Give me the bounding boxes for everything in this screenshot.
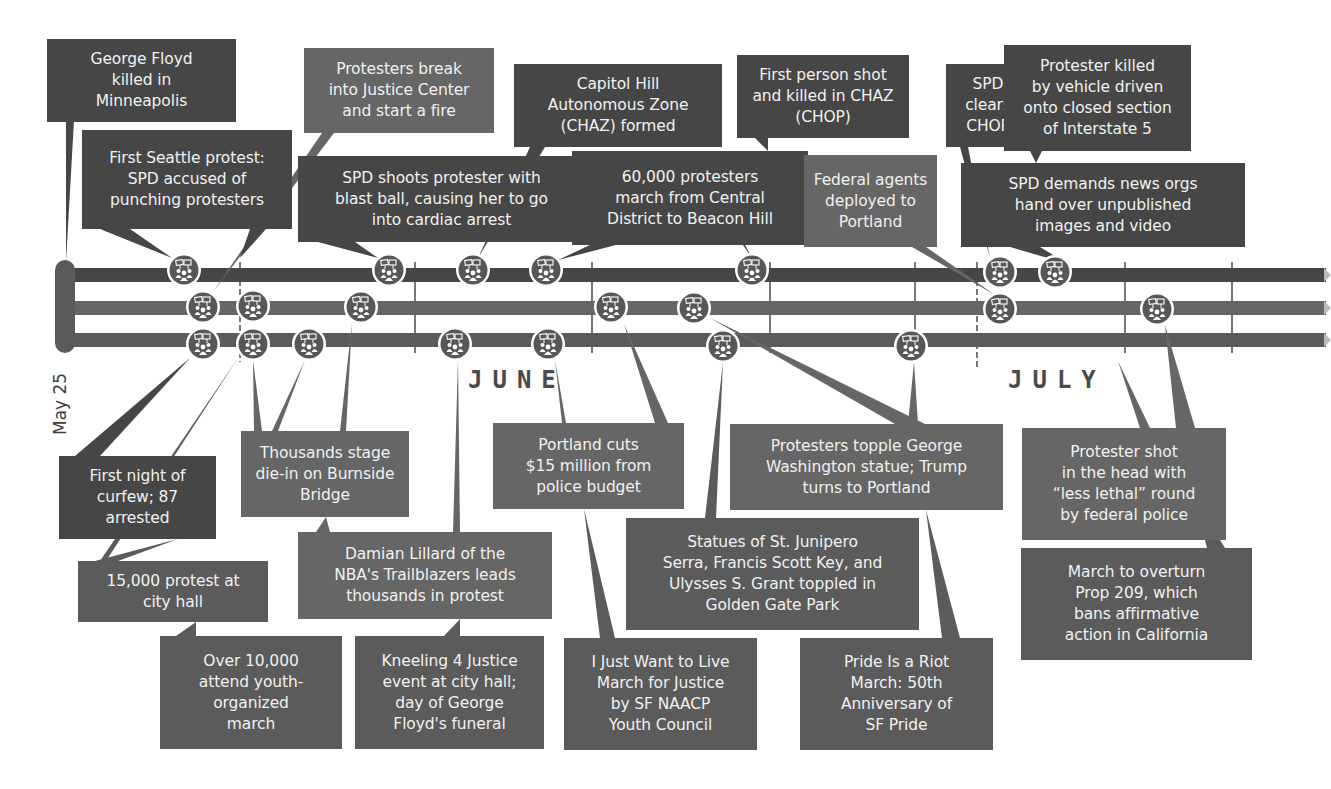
event-text-line: march from Central <box>607 188 773 209</box>
protest-crowd-icon <box>372 253 406 287</box>
event-text-line: killed in <box>91 70 193 91</box>
event-text-line: SPD shoots protester with <box>335 168 548 189</box>
event-text: George Floydkilled inMinneapolis <box>91 49 193 112</box>
pointer-statues-golden-gate <box>705 362 723 518</box>
event-text-line: First night of <box>90 466 186 487</box>
event-callout-news-orgs: SPD demands news orgshand over unpublish… <box>961 163 1245 247</box>
event-text-line: First Seattle protest: <box>109 148 265 169</box>
event-text-line: action in California <box>1065 625 1208 646</box>
event-callout-i-just-want-to-live: I Just Want to LiveMarch for Justiceby S… <box>564 638 757 750</box>
event-text-line: police budget <box>526 477 652 498</box>
event-text-line: Anniversary of <box>841 694 952 715</box>
event-text-line: event at city hall; <box>381 672 517 693</box>
event-text-line: “less lethal” round <box>1053 484 1196 505</box>
event-text-line: into Justice Center <box>329 80 470 101</box>
event-text-line: Capitol Hill <box>548 74 689 95</box>
event-text-line: March for Justice <box>592 673 730 694</box>
event-callout-pride-is-a-riot: Pride Is a RiotMarch: 50thAnniversary of… <box>800 638 993 750</box>
pointer-die-in-burnside <box>253 360 262 431</box>
event-text: SPD shoots protester withblast ball, cau… <box>335 168 548 231</box>
event-text-line: Pride Is a Riot <box>841 652 952 673</box>
event-text: 15,000 protest atcity hall <box>106 571 239 613</box>
event-text-line: SPD demands news orgs <box>1008 174 1197 195</box>
protest-crowd-icon <box>677 291 711 325</box>
event-text: Thousands stagedie-in on BurnsideBridge <box>256 443 395 506</box>
event-text-line: by federal police <box>1053 505 1196 526</box>
event-text-line: First person shot <box>752 65 893 86</box>
event-callout-damian-lillard: Damian Lillard of theNBA's Trailblazers … <box>298 532 552 619</box>
event-text: I Just Want to LiveMarch for Justiceby S… <box>592 652 730 736</box>
event-text: First night ofcurfew; 87arrested <box>90 466 186 529</box>
pointer-damian-lillard <box>316 517 330 532</box>
pointer-less-lethal-round <box>1118 361 1150 428</box>
event-text-line: Floyd's funeral <box>381 714 517 735</box>
event-text-line: Over 10,000 <box>199 651 303 672</box>
event-text-line: SF Pride <box>841 715 952 736</box>
event-text: SPD demands news orgshand over unpublish… <box>1008 174 1197 237</box>
protest-crowd-icon <box>1140 292 1174 326</box>
pointer-die-in-burnside <box>272 360 305 431</box>
start-date-label: May 25 <box>50 405 120 435</box>
event-text: Statues of St. JuniperoSerra, Francis Sc… <box>663 532 883 616</box>
event-text-line: city hall <box>106 592 239 613</box>
event-callout-sixty-thousand-march: 60,000 protestersmarch from CentralDistr… <box>572 151 808 245</box>
event-callout-george-floyd: George Floydkilled inMinneapolis <box>47 39 236 122</box>
event-text-line: Golden Gate Park <box>663 595 883 616</box>
event-text-line: blast ball, causing her to go <box>335 189 548 210</box>
protest-crowd-icon <box>531 327 565 361</box>
event-text: Protester killedby vehicle drivenonto cl… <box>1023 56 1171 140</box>
month-label-june: JUNE <box>468 366 566 394</box>
protest-crowd-icon <box>594 290 628 324</box>
track-end-arrow-icon <box>1324 301 1331 315</box>
event-text-line: (CHAZ) formed <box>548 116 689 137</box>
event-text-line: Federal agents <box>814 170 928 191</box>
event-text: Kneeling 4 Justiceevent at city hall;day… <box>381 651 517 735</box>
event-text-line: District to Beacon Hill <box>607 209 773 230</box>
pointer-damian-lillard <box>453 360 460 532</box>
event-text-line: Ulysses S. Grant toppled in <box>663 574 883 595</box>
event-text-line: Protesters topple George <box>766 436 967 457</box>
pointer-first-person-shot-chaz <box>755 138 768 151</box>
event-callout-fifteen-thousand-city-hall: 15,000 protest atcity hall <box>78 561 268 622</box>
event-text: First person shotand killed in CHAZ(CHOP… <box>752 65 893 128</box>
protest-crowd-icon <box>236 289 270 323</box>
pointer-sixty-thousand-march <box>558 245 616 260</box>
event-callout-portland-cuts-budget: Portland cuts$15 million frompolice budg… <box>493 423 684 509</box>
event-callout-interstate-5: Protester killedby vehicle drivenonto cl… <box>1004 45 1191 151</box>
event-text-line: $15 million from <box>526 456 652 477</box>
event-text-line: Bridge <box>256 485 395 506</box>
event-callout-youth-march: Over 10,000attend youth-organizedmarch <box>160 636 342 749</box>
event-text-line: turns to Portland <box>766 478 967 499</box>
event-text: Federal agentsdeployed toPortland <box>814 170 928 233</box>
event-callout-federal-agents: Federal agentsdeployed toPortland <box>804 155 937 247</box>
event-text-line: Autonomous Zone <box>548 95 689 116</box>
event-text: Protesters breakinto Justice Centerand s… <box>329 59 470 122</box>
pointer-pride-is-a-riot <box>926 510 960 638</box>
pointer-first-seattle-protest <box>100 229 172 258</box>
event-text: Damian Lillard of theNBA's Trailblazers … <box>334 544 515 607</box>
event-text-line: thousands in protest <box>334 586 515 607</box>
event-text: 60,000 protestersmarch from CentralDistr… <box>607 167 773 230</box>
event-text-line: by vehicle driven <box>1023 77 1171 98</box>
event-text-line: arrested <box>90 508 186 529</box>
event-text-line: die-in on Burnside <box>256 464 395 485</box>
event-callout-first-seattle-protest: First Seattle protest:SPD accused ofpunc… <box>82 130 292 229</box>
event-text-line: attend youth- <box>199 672 303 693</box>
event-text-line: Portland <box>814 212 928 233</box>
event-text-line: Damian Lillard of the <box>334 544 515 565</box>
pointer-kneeling-4-justice <box>444 619 460 636</box>
protest-timeline-diagram: May 25 JUNE JULY George Floydkilled inMi… <box>0 0 1331 789</box>
protest-crowd-icon <box>529 253 563 287</box>
event-text-line: hand over unpublished <box>1008 195 1197 216</box>
event-text-line: and killed in CHAZ <box>752 86 893 107</box>
event-callout-prop-209: March to overturnProp 209, whichbans aff… <box>1021 548 1252 660</box>
event-text-line: into cardiac arrest <box>335 210 548 231</box>
month-label-july: JULY <box>1008 366 1106 394</box>
event-text-line: George Floyd <box>91 49 193 70</box>
protest-crowd-icon <box>344 290 378 324</box>
event-text-line: Kneeling 4 Justice <box>381 651 517 672</box>
event-text-line: march <box>199 714 303 735</box>
event-text-line: Protester killed <box>1023 56 1171 77</box>
protest-crowd-icon <box>186 327 220 361</box>
event-text-line: images and video <box>1008 216 1197 237</box>
